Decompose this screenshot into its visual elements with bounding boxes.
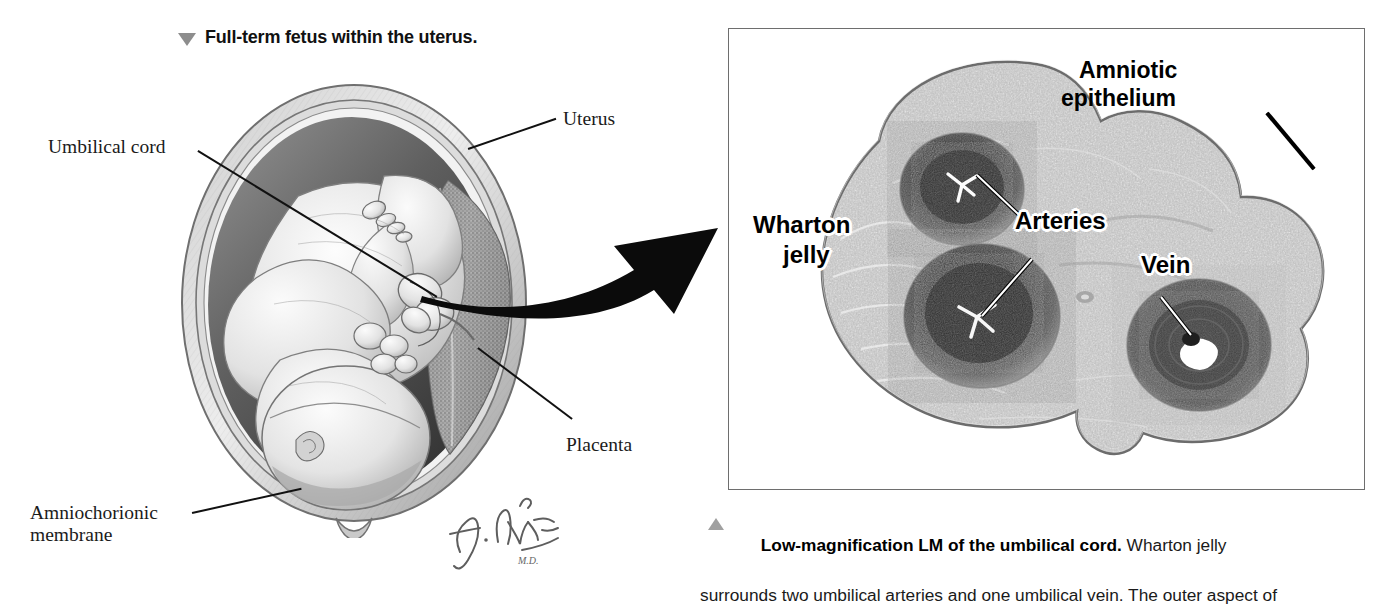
label-placenta: Placenta <box>566 434 632 456</box>
label-wharton-jelly-line2: jelly <box>783 241 830 269</box>
label-uterus: Uterus <box>563 108 615 130</box>
label-umbilical-cord: Umbilical cord <box>48 136 166 158</box>
label-amniochorionic-membrane-line1: Amniochorionic <box>30 502 158 524</box>
svg-text:M.D.: M.D. <box>517 555 539 566</box>
caption-bold-lead: Low-magnification LM of the umbilical co… <box>761 535 1122 555</box>
label-vein: Vein <box>1141 251 1190 279</box>
label-amniotic-epithelium-line2: epithelium <box>1061 85 1176 112</box>
left-figure-heading: Full-term fetus within the uterus. <box>205 27 477 48</box>
artist-signature: M.D. <box>430 490 570 570</box>
triangle-down-icon <box>178 33 196 46</box>
micrograph-panel: Amniotic epithelium Arteries Wharton jel… <box>728 28 1365 490</box>
caption-line2: surrounds two umbilical arteries and one… <box>700 583 1397 608</box>
label-wharton-jelly-line1: Wharton <box>753 211 850 239</box>
curved-arrow-icon <box>418 198 748 328</box>
triangle-up-icon <box>708 518 724 530</box>
label-amniochorionic-membrane-line2: membrane <box>30 524 112 546</box>
label-arteries: Arteries <box>1015 207 1106 235</box>
caption-line1-rest: Wharton jelly <box>1122 535 1227 555</box>
label-amniotic-epithelium-line1: Amniotic <box>1079 57 1177 84</box>
figure-caption: Low-magnification LM of the umbilical co… <box>700 508 1397 608</box>
